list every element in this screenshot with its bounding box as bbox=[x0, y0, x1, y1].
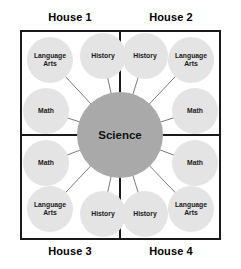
subject-node-language-arts-house-4[interactable]: LanguageArts bbox=[168, 186, 214, 232]
spoke-line bbox=[65, 76, 91, 104]
subject-node-label: Math bbox=[38, 159, 54, 167]
subject-node-label: LanguageArts bbox=[34, 201, 66, 217]
spoke-line bbox=[108, 78, 112, 94]
subject-node-label: History bbox=[91, 210, 114, 218]
subject-node-history-house-1[interactable]: History bbox=[80, 33, 126, 79]
subject-node-math-house-1[interactable]: Math bbox=[23, 88, 69, 134]
subject-node-language-arts-house-1[interactable]: LanguageArts bbox=[27, 37, 73, 83]
subject-node-history-house-2[interactable]: History bbox=[122, 33, 168, 79]
subject-node-label: Math bbox=[187, 159, 203, 167]
spoke-line bbox=[149, 165, 176, 193]
center-node-science[interactable]: Science bbox=[77, 92, 163, 178]
subject-node-label: LanguageArts bbox=[175, 52, 207, 68]
subject-node-language-arts-house-2[interactable]: LanguageArts bbox=[168, 37, 214, 83]
center-node-label: Science bbox=[98, 129, 141, 141]
subject-node-language-arts-house-3[interactable]: LanguageArts bbox=[27, 186, 73, 232]
curriculum-diagram: House 1 House 2 House 3 House 4 Language… bbox=[0, 0, 241, 269]
spoke-line bbox=[160, 118, 174, 122]
subject-node-math-house-4[interactable]: Math bbox=[172, 140, 218, 186]
spoke-line bbox=[133, 77, 139, 95]
spoke-line bbox=[67, 150, 81, 155]
subject-node-label: History bbox=[133, 52, 156, 60]
spoke-line bbox=[149, 76, 176, 105]
subject-node-label: Math bbox=[38, 107, 54, 115]
subject-node-label: Math bbox=[187, 107, 203, 115]
subject-node-history-house-4[interactable]: History bbox=[122, 191, 168, 237]
spoke-line bbox=[108, 176, 112, 192]
subject-node-label: History bbox=[91, 52, 114, 60]
subject-node-label: LanguageArts bbox=[175, 201, 207, 217]
spoke-line bbox=[159, 150, 174, 156]
subject-node-history-house-3[interactable]: History bbox=[80, 191, 126, 237]
subject-node-math-house-3[interactable]: Math bbox=[23, 140, 69, 186]
spoke-line bbox=[65, 166, 91, 194]
spoke-line bbox=[133, 175, 139, 193]
subject-node-math-house-2[interactable]: Math bbox=[172, 88, 218, 134]
subject-node-label: History bbox=[133, 210, 156, 218]
subject-node-label: LanguageArts bbox=[34, 52, 66, 68]
